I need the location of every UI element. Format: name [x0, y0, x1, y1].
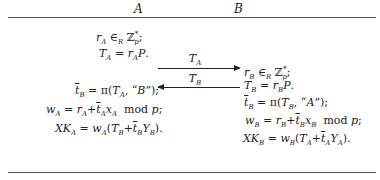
- a-line-3: tB = π(TA, “B”);: [75, 84, 159, 102]
- b-line-4: wB = rB+tBxB mod p;: [245, 114, 362, 132]
- a-line-1: rA ∈R ℤ*p;: [96, 27, 142, 49]
- party-b-header: B: [234, 2, 243, 16]
- message-ta-label: TA: [165, 52, 225, 67]
- arrowhead-left-icon: [157, 84, 164, 90]
- a-line-5: XKA = wA(TB+tBYB).: [55, 122, 163, 140]
- b-line-3: tB = π(TB, “A”);: [244, 96, 328, 114]
- arrow-b-to-a: [158, 87, 240, 88]
- message-tb-label: TB: [165, 72, 225, 87]
- arrowhead-right-icon: [234, 65, 241, 71]
- arrow-a-to-b: [158, 68, 240, 69]
- top-rule: [8, 17, 376, 18]
- party-a-header: A: [134, 2, 143, 16]
- a-line-4: wA = rA+tAxA mod p;: [46, 103, 162, 121]
- bottom-rule: [8, 172, 376, 173]
- b-line-2: TB = rBP.: [244, 79, 294, 97]
- b-line-5: XKB = wB(TA+tAYA).: [243, 132, 351, 150]
- a-line-2: TA = rAP.: [99, 47, 149, 65]
